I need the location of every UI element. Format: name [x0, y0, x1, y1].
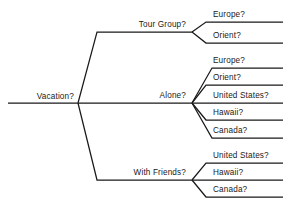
node-label-with-friends: With Friends? [100, 169, 186, 177]
leaf-label-tour-group-europe: Europe? [213, 11, 245, 19]
leaf-label-alone-canada: Canada? [213, 127, 247, 135]
leaf-label-alone-europe: Europe? [213, 57, 245, 65]
node-label-tour-group: Tour Group? [100, 21, 186, 29]
node-label-alone: Alone? [100, 92, 186, 100]
decision-tree-diagram: Vacation? Tour Group? Alone? With Friend… [0, 0, 287, 220]
leaf-label-alone-hawaii: Hawaii? [213, 109, 243, 117]
leaf-label-alone-orient: Orient? [213, 74, 241, 82]
leaf-label-with-friends-canada: Canada? [213, 186, 247, 194]
leaf-label-alone-united-states: United States? [213, 92, 269, 100]
leaf-label-with-friends-united-states: United States? [213, 152, 269, 160]
leaf-label-with-friends-hawaii: Hawaii? [213, 169, 243, 177]
leaf-label-tour-group-orient: Orient? [213, 32, 241, 40]
node-label-vacation: Vacation? [8, 93, 74, 101]
